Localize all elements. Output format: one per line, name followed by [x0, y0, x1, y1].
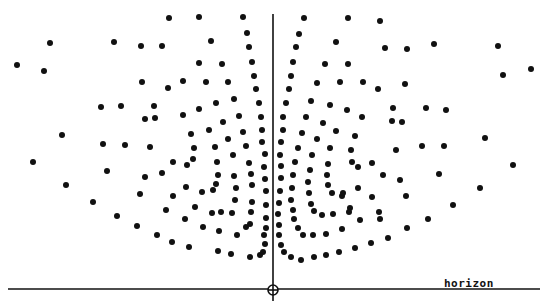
dot [307, 167, 313, 173]
dot [249, 182, 255, 188]
dot [159, 43, 165, 49]
dot [295, 145, 301, 151]
dot [166, 15, 172, 21]
dot [247, 254, 253, 260]
dot [263, 225, 269, 231]
dot [288, 73, 294, 79]
dot [215, 172, 221, 178]
dot [329, 190, 335, 196]
dot [336, 249, 342, 255]
dot [340, 190, 346, 196]
dot [436, 171, 442, 177]
dot [225, 79, 231, 85]
dot [231, 173, 237, 179]
dot [314, 136, 320, 142]
dot [251, 73, 257, 79]
dot [276, 200, 282, 206]
dot [218, 209, 224, 215]
dot [443, 107, 449, 113]
dot [118, 103, 124, 109]
dot [333, 128, 339, 134]
dot [184, 162, 190, 168]
dot [240, 129, 246, 135]
dot [305, 179, 311, 185]
dot [186, 244, 192, 250]
dot [292, 159, 298, 165]
dot [278, 163, 284, 169]
dot [213, 100, 219, 106]
dot [169, 239, 175, 245]
dot [355, 185, 361, 191]
dot [196, 106, 202, 112]
dot [170, 159, 176, 165]
dot [390, 105, 396, 111]
dot [240, 14, 246, 20]
dot [206, 127, 212, 133]
dot [248, 171, 254, 177]
dot [290, 172, 296, 178]
dot [212, 144, 218, 150]
dot [303, 114, 309, 120]
dot [389, 118, 395, 124]
dot [397, 177, 403, 183]
dot [191, 145, 197, 151]
dot [431, 41, 437, 47]
dot [308, 201, 314, 207]
dot [310, 232, 316, 238]
dot [152, 115, 158, 121]
dot [403, 193, 409, 199]
dot [295, 225, 301, 231]
dot [359, 114, 365, 120]
dot [59, 132, 65, 138]
dot [301, 15, 307, 21]
dot [236, 113, 242, 119]
dot [142, 174, 148, 180]
dot-field-diagram [0, 0, 553, 301]
dot [263, 215, 269, 221]
dot [253, 86, 259, 92]
dot [261, 164, 267, 170]
dot [220, 119, 226, 125]
dot [246, 44, 252, 50]
dot [327, 102, 333, 108]
dot [196, 60, 202, 66]
dot [276, 222, 282, 228]
dot [325, 161, 331, 167]
dot [345, 61, 351, 67]
dot [260, 249, 266, 255]
dot [138, 43, 144, 49]
horizon-label: horizon [444, 277, 494, 290]
dot [311, 208, 317, 214]
dot [441, 143, 447, 149]
dot [151, 103, 157, 109]
dot [190, 156, 196, 162]
dot [182, 216, 188, 222]
dot [385, 235, 391, 241]
dot [322, 61, 328, 67]
dot [399, 119, 405, 125]
dot [30, 159, 36, 165]
dot [261, 232, 267, 238]
dot [280, 114, 286, 120]
dot [259, 139, 265, 145]
dot [114, 213, 120, 219]
dot [208, 38, 214, 44]
dot [63, 182, 69, 188]
dot [278, 175, 284, 181]
dot [377, 18, 383, 24]
dot [375, 86, 381, 92]
dot [47, 40, 53, 46]
dot [203, 79, 209, 85]
dot [369, 160, 375, 166]
dot [306, 190, 312, 196]
dot [510, 162, 516, 168]
dot [147, 144, 153, 150]
dot [450, 202, 456, 208]
dot [249, 59, 255, 65]
dot [159, 170, 165, 176]
dot [277, 188, 283, 194]
dot [290, 207, 296, 213]
dot [349, 159, 355, 165]
dot [419, 143, 425, 149]
dot [209, 210, 215, 216]
